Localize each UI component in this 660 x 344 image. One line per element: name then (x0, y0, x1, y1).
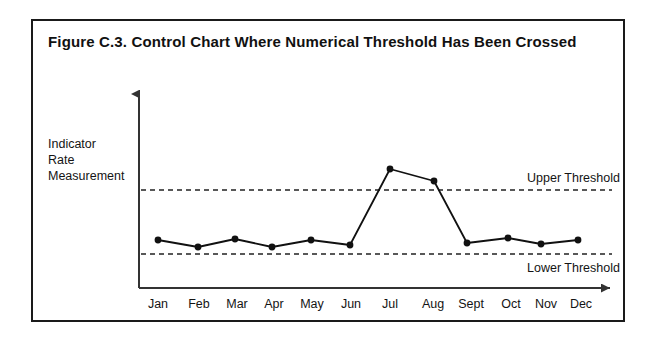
data-point-markers (155, 166, 582, 251)
y-axis-label-line-2: Rate (48, 153, 74, 167)
data-point (347, 242, 354, 249)
upper-threshold-label: Upper Threshold (527, 171, 620, 185)
x-tick-label-jan: Jan (148, 297, 168, 311)
x-tick-label-jul: Jul (382, 297, 398, 311)
figure-root: Figure C.3. Control Chart Where Numerica… (0, 0, 660, 344)
x-tick-label-aug: Aug (422, 297, 444, 311)
data-point (575, 237, 582, 244)
y-axis-label-line-3: Measurement (48, 169, 125, 183)
data-point (464, 240, 471, 247)
data-series-line (158, 169, 578, 247)
data-point (232, 236, 239, 243)
data-point (308, 237, 315, 244)
x-tick-label-mar: Mar (226, 297, 248, 311)
data-point (505, 235, 512, 242)
x-tick-label-nov: Nov (535, 297, 558, 311)
y-axis-label-line-1: Indicator (48, 137, 96, 151)
x-axis-tick-labels: Jan Feb Mar Apr May Jun Jul Aug Sept Oct… (148, 297, 592, 311)
control-chart: Indicator Rate Measurement Upper Thresho… (0, 0, 660, 344)
y-axis-label: Indicator Rate Measurement (48, 137, 125, 183)
data-point (269, 244, 276, 251)
x-tick-label-apr: Apr (264, 297, 283, 311)
data-point (431, 178, 438, 185)
x-tick-label-oct: Oct (501, 297, 521, 311)
data-point (538, 241, 545, 248)
data-point (195, 244, 202, 251)
x-tick-label-sept: Sept (458, 297, 484, 311)
data-point (387, 166, 394, 173)
data-point (155, 237, 162, 244)
x-tick-label-may: May (300, 297, 324, 311)
x-tick-label-dec: Dec (570, 297, 592, 311)
x-tick-label-jun: Jun (341, 297, 361, 311)
lower-threshold-label: Lower Threshold (527, 261, 620, 275)
x-tick-label-feb: Feb (188, 297, 210, 311)
